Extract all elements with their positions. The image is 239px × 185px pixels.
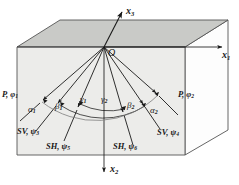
x2-axis-label: x2 xyxy=(110,164,118,175)
angle-beta-2-label: β2 xyxy=(127,101,134,111)
angle-alpha-2-label: α2 xyxy=(150,106,158,116)
diagram-svg xyxy=(0,0,239,185)
angle-beta-1-label: β1 xyxy=(55,102,62,112)
x1-axis-label: x1 xyxy=(222,50,230,61)
origin-label: O xyxy=(108,48,115,58)
angle-gamma-2-label: γ2 xyxy=(101,95,108,105)
angle-gamma-1-label: γ1 xyxy=(80,95,87,105)
wave-label-sh-left: SH, ψ5 xyxy=(46,142,70,152)
figure-canvas: x3 x1 x2 O P, φ1 SV, ψ3 SH, ψ5 P, φ2 SV,… xyxy=(0,0,239,185)
angle-alpha-1-label: α1 xyxy=(28,105,36,115)
wave-label-sv-right: SV, ψ4 xyxy=(157,128,179,138)
wave-label-p-left: P, φ1 xyxy=(2,90,18,100)
wave-label-p-right: P, φ2 xyxy=(178,90,194,100)
wave-label-sv-left: SV, ψ3 xyxy=(17,127,39,137)
x3-axis-label: x3 xyxy=(126,6,134,17)
wave-label-sh-right: SH, ψ6 xyxy=(113,142,137,152)
